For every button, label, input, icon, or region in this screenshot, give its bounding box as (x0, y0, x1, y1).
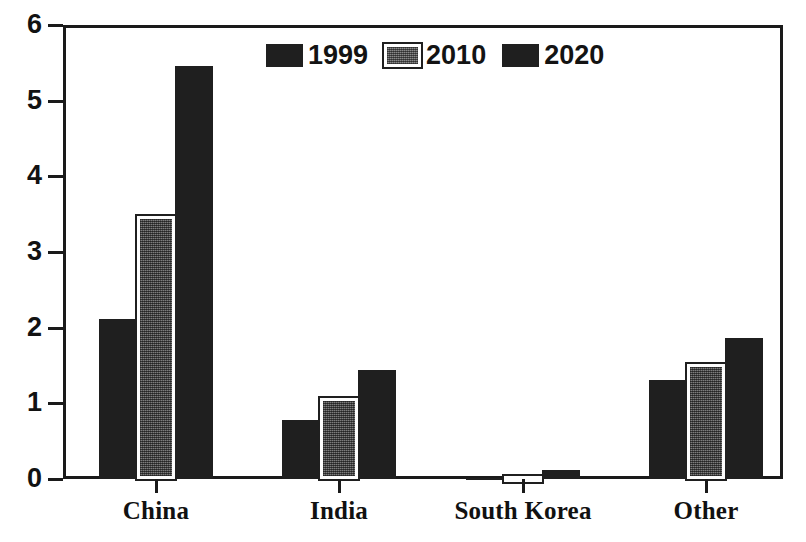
y-axis-tick (48, 402, 63, 405)
x-axis-tick (155, 479, 158, 493)
y-axis-tick (48, 175, 63, 178)
y-axis-tick (48, 251, 63, 254)
x-axis-tick (522, 479, 525, 493)
x-axis-label: Other (674, 497, 739, 525)
x-axis-label: India (310, 497, 368, 525)
y-axis-tick (48, 100, 63, 103)
bar-chart: 6543210 ChinaIndiaSouth KoreaOther 1999 … (0, 0, 806, 542)
y-axis-label: 6 (27, 11, 42, 38)
y-axis-label: 5 (27, 87, 42, 114)
x-axis-label: China (123, 497, 189, 525)
legend-item-2020: 2020 (502, 42, 604, 69)
y-axis-label: 0 (27, 465, 42, 492)
y-axis-label: 2 (27, 314, 42, 341)
x-axis-tick (705, 479, 708, 493)
legend-label-2010: 2010 (426, 42, 486, 69)
y-axis-tick (48, 24, 63, 27)
y-axis-tick (48, 327, 63, 330)
y-axis-label: 4 (27, 162, 42, 189)
y-axis-label: 3 (27, 238, 42, 265)
legend-item-2010: 2010 (384, 42, 486, 69)
y-axis-tick (48, 478, 63, 481)
legend-swatch-2020-icon (502, 44, 539, 67)
legend-label-2020: 2020 (544, 42, 604, 69)
legend-swatch-2010-icon (384, 44, 421, 67)
y-axis-label: 1 (27, 389, 42, 416)
legend-label-1999: 1999 (308, 42, 368, 69)
x-axis-label: South Korea (454, 497, 591, 525)
x-axis-tick (338, 479, 341, 493)
plot-area-frame (63, 25, 783, 479)
legend-swatch-1999-icon (266, 44, 303, 67)
legend-item-1999: 1999 (266, 42, 368, 69)
chart-legend: 1999 2010 2020 (262, 40, 608, 71)
